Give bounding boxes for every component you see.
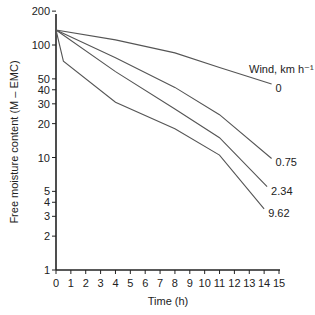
legend-title: Wind, km h⁻¹ bbox=[249, 63, 314, 75]
series-label-2-34: 2.34 bbox=[271, 185, 292, 197]
y-axis-label: Free moisture content (M – EMC) bbox=[8, 60, 20, 223]
moisture-chart: 123451020304050100200 012345678910111213… bbox=[0, 0, 315, 315]
series-line-0-75 bbox=[56, 30, 272, 159]
y-axis-ticks: 123451020304050100200 bbox=[32, 5, 56, 276]
x-axis-ticks: 0123456789101112131415 bbox=[53, 270, 285, 289]
y-tick-label: 20 bbox=[38, 118, 50, 130]
y-tick-label: 40 bbox=[38, 84, 50, 96]
series-line-9-62 bbox=[56, 30, 264, 209]
x-tick-label: 15 bbox=[273, 277, 285, 289]
series-label-0: 0 bbox=[276, 82, 282, 94]
y-tick-label: 30 bbox=[38, 98, 50, 110]
series-lines bbox=[56, 30, 272, 209]
x-tick-label: 0 bbox=[53, 277, 59, 289]
x-tick-label: 9 bbox=[187, 277, 193, 289]
x-tick-label: 4 bbox=[112, 277, 118, 289]
y-tick-label: 50 bbox=[38, 73, 50, 85]
x-tick-label: 2 bbox=[83, 277, 89, 289]
y-tick-label: 2 bbox=[44, 230, 50, 242]
y-tick-label: 1 bbox=[44, 264, 50, 276]
y-tick-label: 4 bbox=[44, 196, 50, 208]
x-tick-label: 10 bbox=[199, 277, 211, 289]
series-line-0 bbox=[56, 30, 272, 84]
x-tick-label: 11 bbox=[214, 277, 225, 289]
x-tick-label: 14 bbox=[258, 277, 270, 289]
x-tick-label: 8 bbox=[172, 277, 178, 289]
x-tick-label: 13 bbox=[243, 277, 255, 289]
y-tick-label: 100 bbox=[32, 39, 50, 51]
x-tick-label: 6 bbox=[142, 277, 148, 289]
x-tick-label: 7 bbox=[157, 277, 163, 289]
x-tick-label: 5 bbox=[127, 277, 133, 289]
x-tick-label: 12 bbox=[228, 277, 240, 289]
y-tick-label: 200 bbox=[32, 5, 50, 17]
series-labels: 00.752.349.62 bbox=[268, 82, 297, 219]
x-tick-label: 3 bbox=[98, 277, 104, 289]
y-tick-label: 5 bbox=[44, 185, 50, 197]
series-line-2-34 bbox=[56, 30, 267, 187]
x-tick-label: 1 bbox=[68, 277, 74, 289]
y-tick-label: 3 bbox=[44, 210, 50, 222]
series-label-0-75: 0.75 bbox=[276, 156, 297, 168]
series-label-9-62: 9.62 bbox=[268, 207, 289, 219]
y-tick-label: 10 bbox=[38, 152, 50, 164]
x-axis-label: Time (h) bbox=[148, 295, 189, 307]
